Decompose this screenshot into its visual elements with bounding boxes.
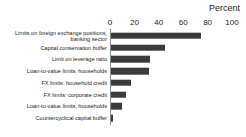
x-axis-tick-labels: 020406080100 (110, 18, 232, 29)
bar (111, 68, 149, 75)
bar-chart: Percent 020406080100 Limits on foreign e… (0, 0, 246, 137)
bar-category-label: Loan-to-value limits, households (3, 103, 107, 109)
bar-category-label: Countercyclical capital buffer (3, 115, 107, 121)
x-tick-label: 80 (203, 18, 212, 27)
bar-row: FX limits: household credit (0, 77, 246, 89)
x-tick-label: 20 (130, 18, 139, 27)
x-tick-label: 100 (225, 18, 238, 27)
bar-category-label: FX limits: household credit (3, 80, 107, 86)
bar (111, 115, 113, 122)
bar-row: Limits on foreign exchange positions, ba… (0, 30, 246, 42)
bar (111, 33, 201, 40)
bar (111, 103, 122, 110)
x-tick-label: 40 (154, 18, 163, 27)
bar-row: Loan-to-value limits, households (0, 101, 246, 113)
bar-row: Limit on leverage ratio (0, 54, 246, 66)
bar-row: Capital conservation buffer (0, 42, 246, 54)
bar-row: FX limits: corporate credit (0, 89, 246, 101)
bar-row: Countercyclical capital buffer (0, 112, 246, 124)
bar (111, 56, 150, 63)
bar-category-label: Capital conservation buffer (3, 45, 107, 51)
axis-title-percent: Percent (209, 3, 240, 13)
bar (111, 80, 131, 87)
bar-category-label: Limits on foreign exchange positions, ba… (3, 30, 107, 42)
bar-category-label: Limit on leverage ratio (3, 56, 107, 62)
x-tick-label: 0 (108, 18, 112, 27)
bar-row: Loan-to-value limits, households (0, 65, 246, 77)
bar-category-label: FX limits: corporate credit (3, 92, 107, 98)
bar (111, 91, 126, 98)
bar (111, 44, 165, 51)
bar-category-label: Loan-to-value limits, households (3, 68, 107, 74)
bar-rows: Limits on foreign exchange positions, ba… (0, 30, 246, 124)
x-tick-label: 60 (179, 18, 188, 27)
